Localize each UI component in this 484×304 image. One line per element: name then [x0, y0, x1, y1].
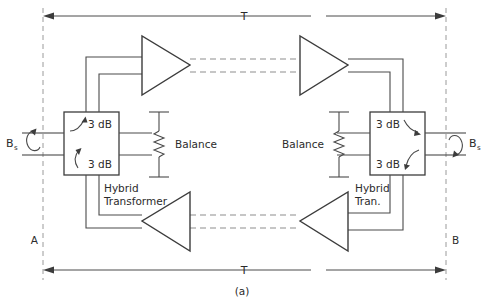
- hybrid-left-loss-upper: 3 dB: [88, 118, 112, 130]
- top-left-amp-input-wire-2: [99, 74, 142, 101]
- amplifier-top-left: [142, 36, 190, 95]
- port-right-label-subscript: s: [477, 144, 481, 152]
- circuit-diagram: T T A B: [0, 0, 484, 304]
- port-left-label-subscript: s: [14, 144, 18, 152]
- hybrid-left-split-arrow-upper: [70, 120, 84, 131]
- hybrid-transformer-left: 3 dB 3 dB: [44, 101, 152, 186]
- hybrid-right-arrowhead-upper: [414, 130, 421, 136]
- figure-caption: (a): [235, 285, 250, 297]
- top-right-amp-output-wire-1: [348, 59, 403, 101]
- top-right-amp-output-wire-2: [348, 72, 390, 101]
- reference-label-b: B: [452, 234, 459, 246]
- arrow-right-bottom: [435, 267, 446, 274]
- hybrid-left-loss-lower: 3 dB: [88, 158, 112, 170]
- balance-right-label: Balance: [282, 138, 324, 150]
- hybrid-left-name-line1: Hybrid: [104, 182, 139, 194]
- balance-left-label: Balance: [175, 138, 217, 150]
- port-left: B s: [6, 129, 44, 156]
- hybrid-right-loss-lower: 3 dB: [376, 158, 400, 170]
- hybrid-right-split-arrow-lower: [406, 150, 419, 166]
- arrow-left-top: [43, 13, 54, 20]
- arrow-left-bottom: [43, 267, 54, 274]
- balance-network-right: Balance: [282, 112, 349, 177]
- reference-label-a: A: [31, 234, 39, 246]
- hybrid-left-name-line2: Transformer: [103, 195, 168, 207]
- port-left-label: B: [6, 137, 14, 150]
- port-right: B s: [445, 133, 481, 158]
- dimension-bottom: T: [43, 264, 446, 277]
- port-right-label: B: [469, 137, 477, 150]
- dimension-top: T: [43, 10, 446, 23]
- figure-root: T T A B: [0, 0, 484, 304]
- hybrid-right-arrowhead-lower: [404, 164, 410, 170]
- top-left-amp-input-wire-1: [86, 57, 142, 101]
- arrow-right-top: [435, 13, 446, 20]
- hybrid-right-name-line2: Tran.: [354, 195, 381, 207]
- balance-right-resistor: [334, 131, 344, 157]
- dimension-bottom-label: T: [240, 264, 248, 277]
- hybrid-right-loss-upper: 3 dB: [376, 118, 400, 130]
- hybrid-right-split-arrow-upper: [404, 120, 418, 132]
- dimension-top-label: T: [240, 10, 248, 23]
- balance-left-resistor: [154, 131, 164, 157]
- balance-network-left: Balance: [149, 112, 217, 177]
- hybrid-right-name-line1: Hybrid: [355, 182, 390, 194]
- amplifier-bottom-right: [300, 192, 348, 251]
- hybrid-transformer-right: 3 dB 3 dB: [337, 101, 445, 186]
- amplifier-top-right: [300, 36, 348, 95]
- hybrid-left-arrowhead-upper: [82, 117, 88, 123]
